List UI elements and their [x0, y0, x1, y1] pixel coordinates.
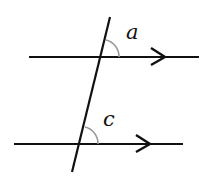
diagram-svg	[0, 0, 217, 183]
angle-arc-c	[85, 127, 98, 144]
diagram-canvas: a c	[0, 0, 217, 183]
angle-label-c: c	[103, 109, 115, 130]
transversal-line	[72, 17, 110, 172]
angle-label-a: a	[126, 22, 139, 43]
angle-arc-a	[106, 40, 119, 57]
